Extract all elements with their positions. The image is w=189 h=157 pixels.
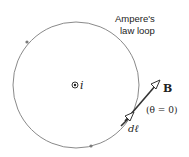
loop-label-line2: law loop <box>120 25 155 36</box>
current-out-of-page-icon <box>72 82 78 88</box>
current-label: i <box>80 79 84 92</box>
field-label: B <box>163 82 172 95</box>
loop-direction-marker-icon <box>89 144 92 147</box>
amperes-law-diagram: i B (θ = 0) dℓ Ampere's law loop <box>0 0 189 157</box>
length-element-label: dℓ <box>128 123 139 134</box>
loop-label-line1: Ampere's <box>115 13 155 24</box>
angle-label: (θ = 0) <box>146 105 177 115</box>
loop-direction-marker-icon <box>25 40 28 43</box>
